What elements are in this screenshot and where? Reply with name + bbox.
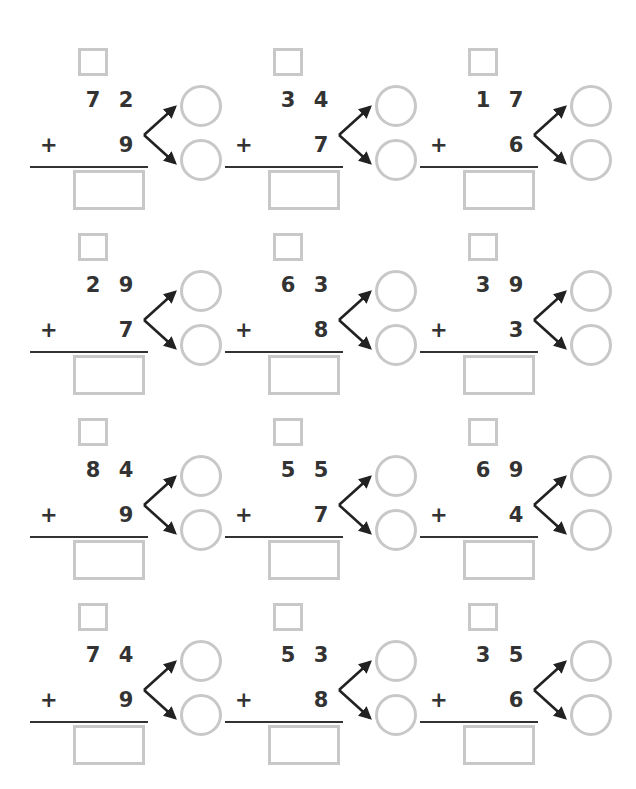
place-value-circle-ones[interactable]: [375, 509, 417, 551]
addend-digit: 7: [310, 133, 332, 157]
tens-digit: 3: [472, 643, 494, 667]
place-value-circle-tens[interactable]: [375, 270, 417, 312]
tens-digit: 3: [277, 88, 299, 112]
addend-digit: 9: [115, 133, 137, 157]
sum-rule: [420, 351, 538, 353]
place-value-circle-ones[interactable]: [180, 694, 222, 736]
place-value-circle-tens[interactable]: [180, 270, 222, 312]
addend-digit: 3: [505, 318, 527, 342]
plus-operator: +: [235, 318, 253, 342]
addition-problem: 63+8: [225, 225, 420, 410]
plus-operator: +: [40, 133, 58, 157]
decomposition-group: [142, 640, 225, 740]
tens-digit: 3: [472, 273, 494, 297]
answer-box[interactable]: [463, 725, 535, 765]
answer-box[interactable]: [268, 355, 340, 395]
addition-problem: 53+8: [225, 595, 420, 780]
decomposition-group: [337, 270, 420, 370]
place-value-circle-ones[interactable]: [375, 139, 417, 181]
carry-box[interactable]: [468, 233, 498, 261]
tens-digit: 5: [277, 643, 299, 667]
tens-digit: 5: [277, 458, 299, 482]
place-value-circle-tens[interactable]: [180, 85, 222, 127]
answer-box[interactable]: [463, 170, 535, 210]
answer-box[interactable]: [463, 355, 535, 395]
place-value-circle-ones[interactable]: [180, 139, 222, 181]
plus-operator: +: [235, 133, 253, 157]
ones-digit: 3: [310, 643, 332, 667]
decomposition-group: [532, 85, 615, 185]
addend-digit: 9: [115, 688, 137, 712]
answer-box[interactable]: [268, 540, 340, 580]
addend-digit: 8: [310, 688, 332, 712]
answer-box[interactable]: [268, 725, 340, 765]
carry-box[interactable]: [273, 233, 303, 261]
sum-rule: [420, 721, 538, 723]
answer-box[interactable]: [73, 725, 145, 765]
place-value-circle-tens[interactable]: [375, 85, 417, 127]
addition-problem: 39+3: [420, 225, 615, 410]
plus-operator: +: [40, 318, 58, 342]
plus-operator: +: [430, 503, 448, 527]
ones-digit: 2: [115, 88, 137, 112]
addition-problem: 17+6: [420, 40, 615, 225]
plus-operator: +: [40, 688, 58, 712]
addend-digit: 6: [505, 688, 527, 712]
place-value-circle-tens[interactable]: [570, 270, 612, 312]
place-value-circle-ones[interactable]: [570, 139, 612, 181]
decomposition-group: [532, 270, 615, 370]
answer-box[interactable]: [73, 540, 145, 580]
place-value-circle-tens[interactable]: [180, 455, 222, 497]
ones-digit: 3: [310, 273, 332, 297]
place-value-circle-ones[interactable]: [375, 324, 417, 366]
carry-box[interactable]: [78, 603, 108, 631]
carry-box[interactable]: [273, 48, 303, 76]
sum-rule: [30, 351, 148, 353]
carry-box[interactable]: [273, 418, 303, 446]
addition-problem: 34+7: [225, 40, 420, 225]
sum-rule: [225, 721, 343, 723]
plus-operator: +: [235, 688, 253, 712]
answer-box[interactable]: [73, 170, 145, 210]
answer-box[interactable]: [463, 540, 535, 580]
addition-problem: 74+9: [30, 595, 225, 780]
place-value-circle-tens[interactable]: [375, 640, 417, 682]
place-value-circle-tens[interactable]: [180, 640, 222, 682]
answer-box[interactable]: [268, 170, 340, 210]
carry-box[interactable]: [468, 418, 498, 446]
carry-box[interactable]: [468, 48, 498, 76]
place-value-circle-tens[interactable]: [570, 640, 612, 682]
plus-operator: +: [235, 503, 253, 527]
plus-operator: +: [430, 688, 448, 712]
tens-digit: 8: [82, 458, 104, 482]
place-value-circle-ones[interactable]: [570, 694, 612, 736]
tens-digit: 2: [82, 273, 104, 297]
carry-box[interactable]: [468, 603, 498, 631]
ones-digit: 9: [505, 458, 527, 482]
place-value-circle-ones[interactable]: [180, 509, 222, 551]
tens-digit: 1: [472, 88, 494, 112]
ones-digit: 9: [115, 273, 137, 297]
addition-problem: 69+4: [420, 410, 615, 595]
place-value-circle-tens[interactable]: [375, 455, 417, 497]
place-value-circle-ones[interactable]: [570, 324, 612, 366]
carry-box[interactable]: [78, 418, 108, 446]
answer-box[interactable]: [73, 355, 145, 395]
carry-box[interactable]: [273, 603, 303, 631]
place-value-circle-ones[interactable]: [570, 509, 612, 551]
decomposition-group: [142, 85, 225, 185]
plus-operator: +: [40, 503, 58, 527]
sum-rule: [30, 536, 148, 538]
addition-problem: 35+6: [420, 595, 615, 780]
place-value-circle-tens[interactable]: [570, 455, 612, 497]
carry-box[interactable]: [78, 48, 108, 76]
carry-box[interactable]: [78, 233, 108, 261]
sum-rule: [420, 166, 538, 168]
decomposition-group: [337, 455, 420, 555]
sum-rule: [420, 536, 538, 538]
decomposition-group: [142, 455, 225, 555]
place-value-circle-ones[interactable]: [375, 694, 417, 736]
place-value-circle-ones[interactable]: [180, 324, 222, 366]
ones-digit: 9: [505, 273, 527, 297]
place-value-circle-tens[interactable]: [570, 85, 612, 127]
